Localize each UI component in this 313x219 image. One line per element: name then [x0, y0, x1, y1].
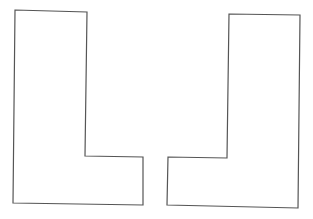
left-l-shape [13, 10, 143, 205]
diagram-canvas [0, 0, 313, 219]
right-mirrored-l-shape [167, 14, 300, 208]
